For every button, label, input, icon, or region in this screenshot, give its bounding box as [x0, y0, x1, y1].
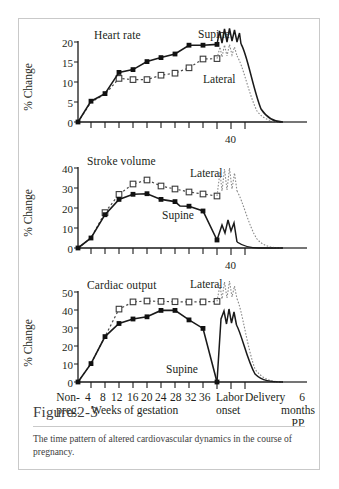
figure-caption-block: Figure 2-3 The time pattern of altered c…	[19, 404, 319, 469]
y-axis-label-heart-rate: % Change	[22, 52, 34, 122]
y-tick-hr-15: 15	[51, 57, 73, 69]
y-axis-label-stroke-volume: % Change	[22, 178, 34, 248]
x-label-pp-line1: 6	[285, 391, 319, 404]
figure-number: Figure 2-3	[33, 404, 305, 426]
y-tick-co-50: 50	[51, 287, 73, 299]
x-tick-label-24: 24	[155, 391, 167, 404]
x-label-nonpreg-line1: Non-	[47, 391, 89, 404]
y-tick-hr-5: 5	[51, 97, 73, 109]
x-tick-label-4: 4	[85, 391, 91, 404]
series-label-supine-co: Supine	[166, 363, 198, 375]
chart-stack: Heart rate % Change 20 15 10 5 0 Supine …	[19, 23, 319, 391]
x-tick-label-8: 8	[100, 391, 106, 404]
chart-title-cardiac-output: Cardiac output	[87, 279, 156, 291]
series-label-supine-sv: Supine	[162, 209, 194, 221]
y-tick-sv-40: 40	[51, 163, 73, 175]
x-tick-label-12: 12	[111, 391, 123, 404]
y-tick-sv-0: 0	[51, 243, 73, 255]
x-label-labor-line1: Labor	[216, 391, 243, 404]
figure-caption-text: The time pattern of altered cardiovascul…	[33, 433, 305, 459]
x-tick-label-32: 32	[185, 391, 197, 404]
y-axis-label-cardiac-output: % Change	[22, 308, 34, 378]
x-marker-40-hr: 40	[225, 133, 236, 145]
chart-stroke-volume: Stroke volume % Change 40 30 20 10 0 Lat…	[19, 149, 319, 275]
figure-card: Heart rate % Change 20 15 10 5 0 Supine …	[18, 18, 320, 470]
caption-divider	[33, 426, 305, 427]
y-tick-sv-30: 30	[51, 183, 73, 195]
x-label-delivery: Delivery	[245, 391, 285, 404]
y-tick-co-20: 20	[51, 341, 73, 353]
y-tick-co-0: 0	[51, 377, 73, 389]
y-tick-hr-20: 20	[51, 37, 73, 49]
series-label-lateral-hr: Lateral	[203, 73, 236, 85]
y-tick-hr-0: 0	[51, 117, 73, 129]
x-tick-label-16: 16	[127, 391, 139, 404]
x-marker-40-sv: 40	[225, 259, 236, 271]
chart-title-heart-rate: Heart rate	[94, 29, 141, 41]
y-tick-sv-20: 20	[51, 203, 73, 215]
y-tick-co-10: 10	[51, 359, 73, 371]
chart-title-stroke-volume: Stroke volume	[87, 155, 156, 167]
series-label-lateral-co: Lateral	[190, 278, 223, 290]
y-tick-co-30: 30	[51, 323, 73, 335]
x-tick-label-36: 36	[199, 391, 211, 404]
y-tick-hr-10: 10	[51, 77, 73, 89]
y-tick-sv-10: 10	[51, 223, 73, 235]
series-label-lateral-sv: Lateral	[190, 167, 223, 179]
y-tick-co-40: 40	[51, 305, 73, 317]
x-tick-label-28: 28	[170, 391, 182, 404]
x-tick-label-20: 20	[141, 391, 153, 404]
series-label-supine-hr: Supine	[198, 28, 230, 40]
chart-heart-rate: Heart rate % Change 20 15 10 5 0 Supine …	[19, 23, 319, 149]
